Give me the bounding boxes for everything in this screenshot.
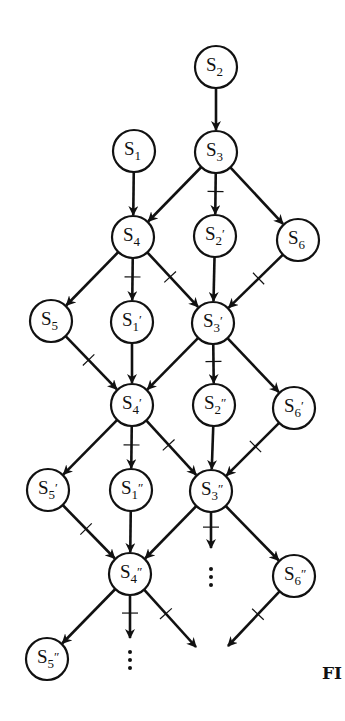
state-node-S6: S6 bbox=[277, 219, 319, 261]
open-edge-from-S6pp bbox=[228, 591, 280, 646]
arrow-line bbox=[147, 338, 198, 389]
edge-S4-to-S5 bbox=[66, 252, 118, 305]
edge-S3pp-to-S4pp bbox=[145, 506, 196, 558]
edge-S2pp-to-S3pp bbox=[212, 426, 214, 469]
node-prime: ′ bbox=[55, 480, 58, 495]
node-prime: ′ bbox=[139, 312, 142, 327]
node-prime: ″ bbox=[218, 481, 223, 496]
edge-S4-to-S3p bbox=[147, 252, 198, 307]
vertical-ellipsis-icon bbox=[128, 650, 132, 670]
state-node-S4pp: S4″ bbox=[109, 553, 151, 595]
arrow-line bbox=[145, 506, 196, 558]
node-prime: ″ bbox=[137, 564, 142, 579]
edge-S3-to-S4 bbox=[148, 167, 201, 221]
edge-S4p-to-S3pp bbox=[146, 420, 196, 474]
figure-caption-fragment: FI bbox=[322, 663, 342, 683]
arrow-line bbox=[212, 426, 214, 469]
edge-S1-to-S4 bbox=[133, 172, 134, 215]
state-node-S6pp: S6″ bbox=[273, 555, 315, 597]
node-prime: ′ bbox=[222, 226, 225, 241]
state-transition-diagram: S2S1S3S4S2′S6S5S1′S3′S4′S2″S6′S5′S1″S3″S… bbox=[0, 0, 345, 721]
vertical-ellipsis-icon bbox=[209, 567, 213, 587]
node-prime: ′ bbox=[301, 398, 304, 413]
edge-S5-to-S4p bbox=[66, 336, 117, 389]
arrow-line bbox=[62, 589, 115, 643]
state-node-S3: S3 bbox=[195, 131, 237, 173]
state-node-S3p: S3′ bbox=[192, 302, 234, 344]
edge-S3p-to-S6p bbox=[227, 338, 278, 392]
edges-layer bbox=[62, 88, 283, 647]
arrow-line bbox=[226, 506, 279, 560]
node-prime: ″ bbox=[301, 566, 306, 581]
arrow-line bbox=[63, 420, 117, 474]
arrow-line bbox=[227, 338, 278, 392]
arrow-line bbox=[66, 336, 117, 389]
arrow-line bbox=[147, 252, 198, 307]
arrow-line bbox=[229, 255, 283, 308]
arrow-line bbox=[148, 167, 201, 221]
node-prime: ″ bbox=[138, 480, 143, 495]
state-node-S4: S4 bbox=[112, 216, 154, 258]
state-node-S1pp: S1″ bbox=[110, 469, 152, 511]
arrow-line bbox=[146, 420, 196, 474]
node-prime: ″ bbox=[221, 395, 226, 410]
edge-S4p-to-S5p bbox=[63, 420, 117, 474]
state-node-S2p: S2′ bbox=[194, 215, 236, 257]
node-subscript: 1 bbox=[135, 148, 142, 163]
edge-S2p-to-S3p bbox=[214, 257, 215, 301]
edge-S5p-to-S4pp bbox=[63, 505, 115, 558]
state-node-S2: S2 bbox=[195, 46, 237, 88]
arrow-line bbox=[214, 257, 215, 301]
arrow-line bbox=[63, 505, 115, 558]
state-node-S4p: S4′ bbox=[111, 384, 153, 426]
state-node-S5p: S5′ bbox=[27, 469, 69, 511]
edge-S4p-to-S1pp bbox=[124, 426, 140, 468]
state-node-S6p: S6′ bbox=[273, 387, 315, 429]
node-prime: ′ bbox=[220, 313, 223, 328]
state-node-S2pp: S2″ bbox=[193, 384, 235, 426]
state-node-S5pp: S5″ bbox=[26, 638, 68, 680]
node-subscript: 5 bbox=[52, 318, 59, 333]
arrow-line bbox=[144, 590, 196, 647]
open-edge-from-S4pp bbox=[144, 590, 196, 647]
open-edge-from-S4pp bbox=[122, 595, 138, 638]
node-subscript: 4 bbox=[134, 234, 141, 249]
edge-S4-to-S1p bbox=[125, 258, 141, 300]
node-subscript: 3 bbox=[217, 149, 224, 164]
open-edge-from-S3pp bbox=[203, 512, 219, 548]
arrow-line bbox=[66, 252, 118, 305]
edge-S3p-to-S2pp bbox=[205, 344, 221, 383]
node-subscript: 2 bbox=[217, 64, 224, 79]
node-prime: ′ bbox=[139, 395, 142, 410]
edge-S3pp-to-S6pp bbox=[226, 506, 279, 560]
arrow-line bbox=[230, 167, 283, 224]
state-node-S3pp: S3″ bbox=[190, 470, 232, 512]
state-node-S5: S5 bbox=[30, 300, 72, 342]
state-node-S1p: S1′ bbox=[111, 301, 153, 343]
edge-S6p-to-S3pp bbox=[227, 423, 280, 476]
edge-S6-to-S3p bbox=[229, 255, 283, 308]
edge-S4pp-to-S5pp bbox=[62, 589, 115, 643]
edge-S3-to-S6 bbox=[230, 167, 283, 224]
arrow-line bbox=[133, 172, 134, 215]
node-subscript: 6 bbox=[299, 237, 306, 252]
edge-S3p-to-S4p bbox=[147, 338, 198, 389]
arrow-line bbox=[228, 591, 280, 646]
arrow-line bbox=[227, 423, 280, 476]
edge-S3-to-S2p bbox=[208, 173, 224, 214]
node-prime: ″ bbox=[54, 649, 59, 664]
state-node-S1: S1 bbox=[113, 130, 155, 172]
